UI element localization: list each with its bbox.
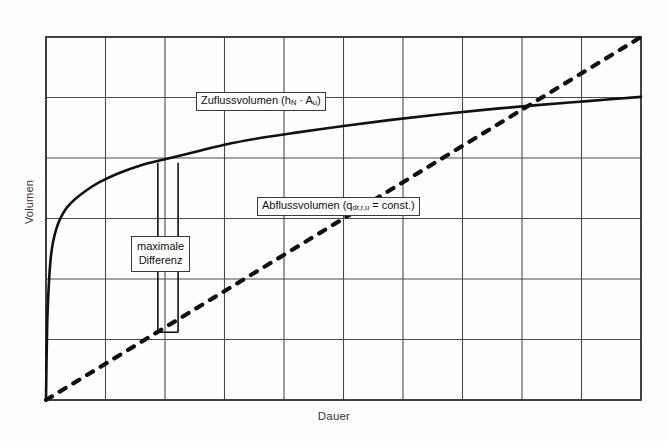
plot-area [46,37,641,400]
label-maximale-differenz: maximale Differenz [131,236,190,272]
label-abfluss-post: = const.) [369,199,415,211]
label-abflussvolumen: Abflussvolumen (qdr,r,u = const.) [257,197,420,216]
label-zuflussvolumen: Zuflussvolumen (hN · Au) [196,92,326,111]
maxdiff-line-2: Differenz [137,253,184,267]
maxdiff-line-1: maximale [137,240,184,252]
y-axis-title: Volumen [23,157,35,247]
label-zufluss-mid: · A [296,94,313,106]
label-abfluss-sub1: dr,r,u [353,203,370,212]
chart-canvas [46,37,641,400]
chart-figure: Volumen Dauer Zuflussvolumen (hN · Au) A… [0,0,668,441]
label-zufluss-post: ) [317,94,321,106]
x-axis-title: Dauer [0,410,668,422]
label-abfluss-pre: Abflussvolumen (q [262,199,353,211]
label-zufluss-pre: Zuflussvolumen (h [201,94,291,106]
